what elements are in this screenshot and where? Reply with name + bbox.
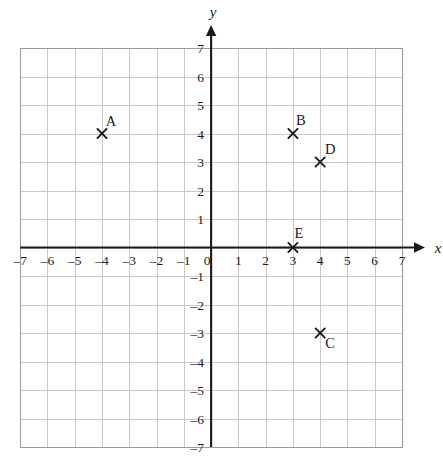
point-label-d: D	[325, 141, 335, 157]
y-tick-label: 5	[197, 98, 204, 113]
y-tick-label: –6	[190, 412, 205, 427]
y-tick-label: –1	[190, 269, 205, 284]
data-point-c: C	[316, 328, 335, 351]
x-tick-label: 4	[317, 253, 324, 268]
y-axis-arrowhead	[206, 25, 216, 36]
x-tick-label: –4	[94, 253, 109, 268]
x-tick-label: 1	[235, 253, 242, 268]
point-label-c: C	[325, 335, 335, 351]
x-tick-label: –3	[122, 253, 137, 268]
x-tick-label: –7	[12, 253, 27, 268]
x-axis-label: x	[434, 240, 442, 256]
x-axis-arrowhead	[414, 242, 425, 252]
point-label-b: B	[296, 112, 306, 128]
x-tick-label: –1	[176, 253, 191, 268]
x-tick-label: 2	[262, 253, 269, 268]
y-tick-label: –4	[190, 355, 205, 370]
origin-label: 0	[204, 253, 211, 268]
point-label-e: E	[294, 225, 303, 241]
y-tick-label: 3	[197, 155, 204, 170]
y-tick-label: 4	[197, 127, 204, 142]
x-tick-label: –6	[40, 253, 55, 268]
y-tick-label: –7	[190, 440, 205, 455]
coordinate-plane-figure: –7–6–5–4–3–2–11234567–7–6–5–4–3–2–112345…	[0, 0, 443, 461]
x-tick-label: 7	[399, 253, 406, 268]
y-tick-label: 6	[197, 70, 204, 85]
coordinate-grid-svg: –7–6–5–4–3–2–11234567–7–6–5–4–3–2–112345…	[0, 0, 443, 461]
x-tick-label: 5	[344, 253, 351, 268]
y-tick-label: 7	[197, 41, 204, 56]
y-tick-label: 1	[197, 212, 204, 227]
axis-names: xy	[208, 4, 442, 256]
y-axis-label: y	[208, 4, 217, 20]
y-tick-label: –5	[190, 383, 205, 398]
x-tick-label: –5	[67, 253, 82, 268]
x-tick-label: –2	[149, 253, 164, 268]
plotted-points: ABCDE	[97, 112, 335, 352]
point-label-a: A	[106, 113, 117, 129]
x-tick-label: 3	[290, 253, 297, 268]
x-tick-label: 6	[371, 253, 378, 268]
y-tick-label: –3	[190, 326, 205, 341]
axes	[20, 25, 425, 447]
y-tick-label: –2	[190, 298, 205, 313]
y-tick-label: 2	[197, 184, 204, 199]
